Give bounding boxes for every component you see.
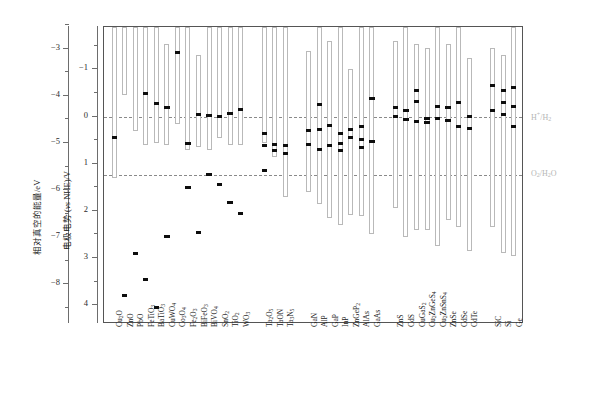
x-axis-label: Co3O4 [179,307,187,327]
x-axis-label: GaP [332,314,340,327]
o2-h2o-reference-label: O2/H2O [531,169,557,178]
x-axis-label: Ge [516,318,524,327]
band-edge-marker [348,128,353,131]
x-axis-label: ZnO [127,313,135,327]
x-axis-label: Ta2O5 [266,309,274,327]
nhe-axis-minor-tick [94,163,98,164]
x-axis-label: PbO [137,314,145,327]
band-gap-bar [435,27,440,246]
x-axis-label: FeTiO3 [148,305,156,327]
band-gap-bar [369,27,374,234]
vacuum-axis-minor-tick [65,142,69,143]
band-edge-marker [262,144,267,147]
x-axis-label: ZnS [397,314,405,327]
band-edge-marker [283,144,288,147]
band-gap-bar [359,27,364,216]
band-edge-marker [206,114,211,117]
band-edge-marker [414,120,419,123]
x-axis-label: CuWO4 [169,303,177,327]
x-axis-label: GaAs [374,310,382,327]
band-edge-marker [456,125,461,128]
band-edge-marker [238,108,243,111]
band-edge-marker [435,105,440,108]
vacuum-axis-minor-tick [65,24,69,25]
x-axis-label: CuGaS2 [419,303,427,327]
nhe-axis-minor-tick [94,92,98,93]
x-axis-label: Cu2ZnGeS4 [429,291,437,327]
band-gap-bar [327,41,332,218]
x-axis-label: AlP [321,315,329,327]
nhe-axis-tick-label: 2 [62,205,88,214]
band-gap-bar [262,27,267,143]
band-gap-bar [175,27,180,124]
x-axis-label: AlAs [363,311,371,327]
nhe-axis-minor-tick [94,233,98,234]
band-edge-marker [227,112,232,115]
x-axis-label: Cu2ZnSnS4 [440,292,448,327]
nhe-axis-minor-tick [94,116,98,117]
x-axis-label: WO3 [243,312,251,327]
band-gap-bar [185,27,190,150]
x-axis-label: Cu2O [116,310,124,327]
band-edge-marker [306,143,311,146]
band-gap-bar [393,41,398,208]
nhe-axis-minor-tick [94,139,98,140]
x-axis-label: ZnSe [450,311,458,327]
vacuum-axis-tick-label: −8 [34,278,60,287]
band-gap-bar [112,27,117,178]
band-edge-marker [501,101,506,104]
vacuum-axis-tick-label: −3 [34,43,60,52]
band-gap-bar [272,27,277,157]
x-axis-label: Ta3N5 [287,309,295,327]
band-edge-marker [424,121,429,124]
band-edge-marker [511,125,516,128]
band-edge-marker [456,101,461,104]
x-axis-label: BiVO4 [211,306,219,327]
band-gap-bar [196,55,201,147]
band-edge-marker [435,117,440,120]
band-alignment-plot [103,26,523,323]
x-axis-label: GaN [311,313,319,327]
x-axis-label: Si [505,321,513,327]
nhe-axis-minor-tick [94,68,98,69]
band-gap-bar [306,51,311,192]
band-edge-marker [327,124,332,127]
band-edge-marker [164,235,169,238]
band-edge-marker [238,212,243,215]
band-edge-marker [445,119,450,122]
band-gap-bar [338,27,343,225]
band-edge-marker [272,143,277,146]
x-axis-label: BaTiO3 [158,304,166,327]
band-edge-marker [217,183,222,186]
nhe-axis-minor-tick [94,45,98,46]
band-gap-bar [425,48,430,230]
band-gap-bar [154,27,159,143]
band-gap-bar [467,58,472,251]
nhe-axis-minor-tick [94,281,98,282]
band-edge-marker [359,125,364,128]
band-gap-bar [348,69,353,215]
band-edge-marker [122,294,127,297]
x-axis-label: CdSe [461,311,469,327]
band-edge-marker [359,146,364,149]
vacuum-axis-minor-tick [65,283,69,284]
band-edge-marker [501,113,506,116]
band-edge-marker [424,117,429,120]
band-edge-marker [185,142,190,145]
band-edge-marker [490,109,495,112]
band-edge-marker [262,169,267,172]
band-edge-marker [511,86,516,89]
nhe-potential-axis [97,26,98,323]
band-edge-marker [467,115,472,118]
x-axis-label: CdTe [471,311,479,327]
x-axis-label: TaON [277,309,285,327]
x-axis-label: BiFeO3 [201,304,209,327]
band-edge-marker [369,97,374,100]
band-edge-marker [227,201,232,204]
band-gap-bar [228,27,233,145]
nhe-axis-minor-tick [94,186,98,187]
band-edge-marker [369,140,374,143]
band-edge-marker [501,89,506,92]
vacuum-axis-minor-tick [65,236,69,237]
band-edge-marker [403,118,408,121]
